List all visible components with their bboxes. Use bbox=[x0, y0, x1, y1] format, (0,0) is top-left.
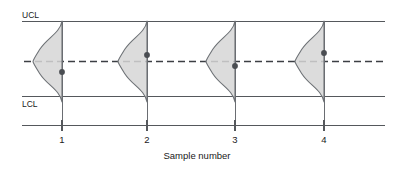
ucl-label: UCL bbox=[22, 10, 39, 20]
x-tick-label-2: 2 bbox=[144, 134, 149, 145]
data-point-1[interactable] bbox=[59, 69, 65, 75]
x-axis-title: Sample number bbox=[163, 150, 230, 161]
data-point-4[interactable] bbox=[321, 50, 327, 56]
lcl-label: LCL bbox=[22, 99, 38, 109]
control-chart-canvas: 1 2 3 4 UCL LCL Sample number bbox=[0, 0, 404, 170]
sample-group-3 bbox=[206, 21, 238, 125]
distribution-curve-1 bbox=[33, 21, 62, 102]
sample-group-2 bbox=[118, 21, 150, 125]
x-tick-label-3: 3 bbox=[232, 134, 237, 145]
data-point-2[interactable] bbox=[144, 52, 150, 58]
x-tick-label-4: 4 bbox=[321, 134, 326, 145]
distribution-curve-2 bbox=[118, 21, 147, 102]
sample-group-4 bbox=[295, 21, 327, 125]
distribution-curve-3 bbox=[206, 21, 235, 102]
x-tick-label-1: 1 bbox=[59, 134, 64, 145]
data-point-3[interactable] bbox=[232, 63, 238, 69]
sample-group-1 bbox=[33, 21, 65, 125]
distribution-curve-4 bbox=[295, 21, 324, 102]
control-chart-figure: 1 2 3 4 UCL LCL Sample number bbox=[0, 0, 404, 170]
